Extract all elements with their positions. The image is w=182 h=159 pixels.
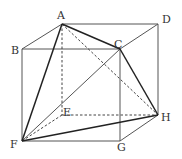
- edge-C-D: [120, 24, 158, 49]
- label-G: G: [117, 141, 126, 154]
- label-E: E: [63, 106, 71, 119]
- cube-diagram: A D B C E H F G: [0, 0, 182, 159]
- edge-A-B: [22, 24, 62, 49]
- edge-F-C: [22, 49, 120, 141]
- edge-A-C: [62, 24, 120, 49]
- label-C: C: [114, 38, 122, 51]
- edge-A-H: [62, 24, 158, 115]
- edge-C-H: [120, 49, 158, 115]
- edge-A-F: [22, 24, 62, 141]
- label-A: A: [56, 9, 66, 22]
- label-B: B: [11, 44, 19, 57]
- label-F: F: [10, 138, 18, 151]
- label-H: H: [161, 111, 171, 124]
- label-D: D: [162, 13, 171, 26]
